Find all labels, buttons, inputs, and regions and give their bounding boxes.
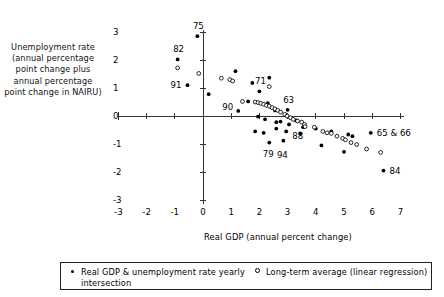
legend-item-series2-continued: intersection <box>69 278 425 289</box>
data-point-open <box>335 134 339 138</box>
y-tick-label: 0 <box>113 111 118 121</box>
data-point-filled <box>176 58 180 62</box>
x-tick-label: 2 <box>257 207 262 217</box>
y-tick-label: 3 <box>113 27 118 37</box>
data-point-open <box>303 125 307 129</box>
data-point-open <box>279 110 283 114</box>
x-tick-label: -3 <box>114 207 123 217</box>
y-tick-label: -2 <box>113 167 122 177</box>
data-point-filled <box>262 131 266 135</box>
data-point-open <box>296 119 300 123</box>
data-point-filled <box>287 123 291 127</box>
x-tick-label: 6 <box>369 207 374 217</box>
data-point-open <box>344 138 348 142</box>
scatter-chart-figure: Unemployment rate (annual percentage poi… <box>0 0 444 297</box>
data-point-filled <box>346 133 350 137</box>
data-point-filled <box>246 100 250 104</box>
data-point-label: 75 <box>193 21 204 31</box>
x-tick-label: -1 <box>171 207 180 217</box>
data-point-open <box>267 85 271 89</box>
data-point-open <box>231 79 235 83</box>
data-point-label: 71 <box>255 76 266 86</box>
data-point-filled <box>274 127 278 131</box>
data-point-open <box>355 143 359 147</box>
y-tick-label: 1 <box>113 83 118 93</box>
data-point-filled <box>267 76 271 80</box>
y-tick-label: -1 <box>113 139 122 149</box>
data-point-filled <box>236 109 240 113</box>
x-tick-label: 1 <box>228 207 233 217</box>
legend-row: Real GDP & unemployment rate yearlyLong-… <box>69 267 425 278</box>
data-point-open <box>241 100 245 104</box>
x-tick-label: 3 <box>285 207 290 217</box>
x-tick-label: 5 <box>341 207 346 217</box>
data-point-filled <box>267 141 271 145</box>
data-point-filled <box>286 108 290 112</box>
series-1-markers: 7582917190638865 & 66799484 <box>171 21 411 175</box>
data-point-open <box>349 141 353 145</box>
data-point-filled <box>258 89 262 93</box>
data-point-filled <box>234 69 238 73</box>
filled-circle-icon <box>71 270 74 273</box>
data-point-filled <box>279 120 283 124</box>
data-point-label: 94 <box>277 150 288 160</box>
data-point-filled <box>298 131 302 135</box>
data-point-filled <box>256 115 260 119</box>
data-point-open <box>312 125 316 129</box>
data-point-open <box>176 66 180 70</box>
x-axis-label: Real GDP (annual percent change) <box>128 232 428 242</box>
data-point-label: 79 <box>263 149 274 159</box>
open-circle-icon <box>255 268 260 273</box>
plot-svg: -3-2-101234567-3-2-101237582917190638865… <box>0 0 444 240</box>
x-tick-label: 4 <box>313 207 318 217</box>
data-point-filled <box>186 83 190 87</box>
data-point-filled <box>320 144 324 148</box>
data-point-filled <box>253 130 257 134</box>
data-point-filled <box>382 169 386 173</box>
data-point-open <box>197 72 201 76</box>
plot-area: -3-2-101234567-3-2-101237582917190638865… <box>0 0 444 240</box>
y-tick-label: -3 <box>113 195 122 205</box>
data-point-filled <box>369 131 373 135</box>
data-point-filled <box>342 150 346 154</box>
x-tick-label: 0 <box>200 207 205 217</box>
legend-item-series2: Long-term average (linear regression) <box>266 267 427 277</box>
y-tick-label: 2 <box>113 55 118 65</box>
data-point-filled <box>207 92 211 96</box>
data-point-label: 90 <box>222 102 233 112</box>
data-point-open <box>219 76 223 80</box>
series-2-markers <box>176 66 383 154</box>
data-point-label: 91 <box>171 80 182 90</box>
data-point-filled <box>263 117 267 121</box>
data-point-label: 63 <box>283 95 294 105</box>
data-point-open <box>329 131 333 135</box>
data-point-filled <box>250 81 254 85</box>
data-point-open <box>365 147 369 151</box>
data-point-open <box>379 151 383 155</box>
data-point-filled <box>351 134 355 138</box>
data-point-label: 82 <box>173 44 184 54</box>
data-point-open <box>321 130 325 134</box>
data-point-filled <box>284 130 288 134</box>
x-tick-label: 7 <box>398 207 403 217</box>
data-point-open <box>325 131 329 135</box>
x-tick-label: -2 <box>142 207 151 217</box>
data-point-filled <box>274 120 278 124</box>
chart-legend: Real GDP & unemployment rate yearlyLong-… <box>60 262 432 290</box>
data-point-filled <box>281 139 285 143</box>
data-point-label: 65 & 66 <box>377 128 411 138</box>
data-point-filled <box>195 34 199 38</box>
data-point-label: 84 <box>389 166 400 176</box>
legend-item-series1: Real GDP & unemployment rate yearly <box>81 267 245 277</box>
data-point-open <box>291 117 295 121</box>
